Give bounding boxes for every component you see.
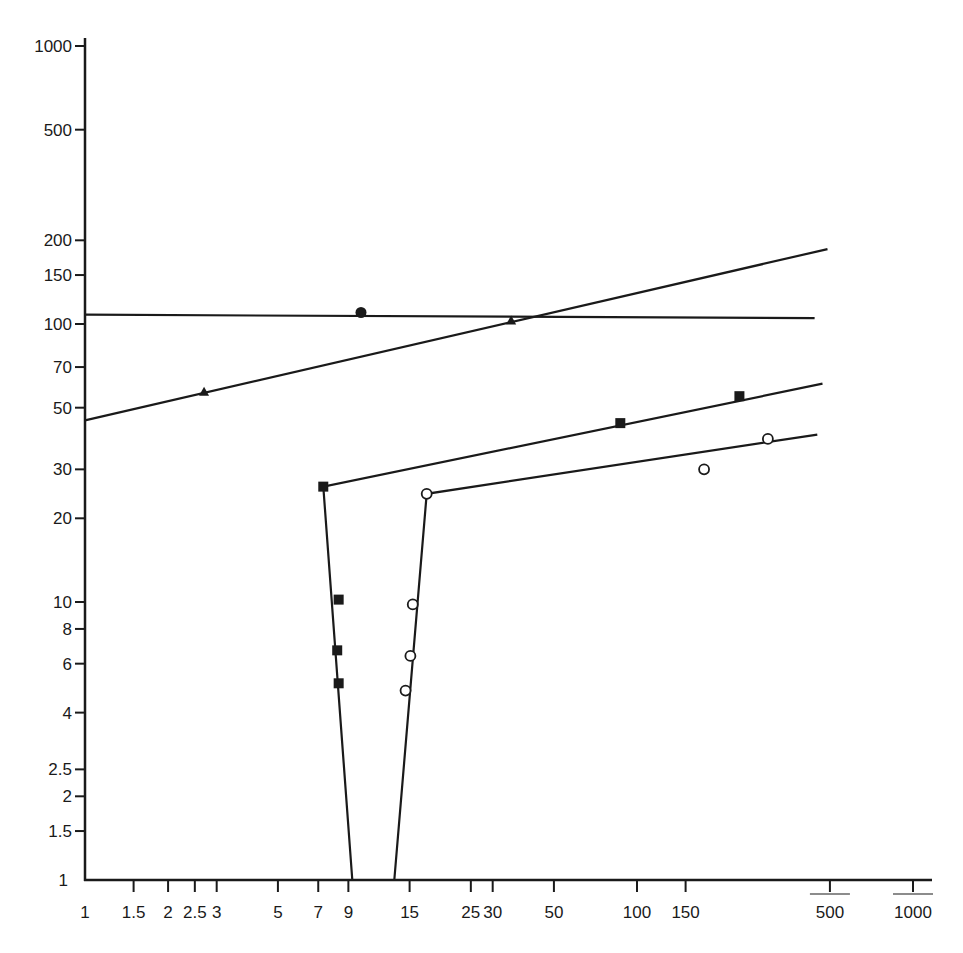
x-tick-label: 1000 xyxy=(894,903,932,922)
y-tick-label: 2.5 xyxy=(48,760,72,779)
y-tick-label: 6 xyxy=(63,655,72,674)
y-tick-label: 2 xyxy=(63,787,72,806)
x-tick-label: 5 xyxy=(273,903,282,922)
x-tick-label: 7 xyxy=(314,903,323,922)
x-tick-label: 30 xyxy=(483,903,502,922)
x-tick-label: 100 xyxy=(623,903,651,922)
x-tick-label: 50 xyxy=(544,903,563,922)
filled-circle-marker xyxy=(356,307,367,318)
x-tick-label: 9 xyxy=(344,903,353,922)
open-circle-marker xyxy=(763,434,773,444)
log-log-chart: 11.522.54681020305070100150200500100011.… xyxy=(0,0,963,953)
y-tick-label: 4 xyxy=(63,704,72,723)
filled-triangle-fit-line xyxy=(85,249,828,420)
open-circle-marker xyxy=(405,651,415,661)
axes: 11.522.54681020305070100150200500100011.… xyxy=(34,37,933,922)
y-tick-label: 70 xyxy=(53,358,72,377)
x-tick-label: 1.5 xyxy=(122,903,146,922)
y-tick-label: 1 xyxy=(59,871,68,890)
fit-lines xyxy=(85,249,828,880)
open-circle-marker xyxy=(422,489,432,499)
y-tick-label: 500 xyxy=(44,121,72,140)
open-circle-marker xyxy=(401,686,411,696)
x-tick-label: 25 xyxy=(461,903,480,922)
x-tick-label: 15 xyxy=(400,903,419,922)
x-tick-label: 150 xyxy=(671,903,699,922)
y-tick-label: 100 xyxy=(44,315,72,334)
x-tick-label: 1 xyxy=(80,903,89,922)
y-tick-label: 8 xyxy=(63,620,72,639)
x-tick-label: 2 xyxy=(163,903,172,922)
open-circle-marker xyxy=(699,464,709,474)
filled-square-fit-line xyxy=(323,384,822,880)
open-circle-fit-line xyxy=(394,435,817,880)
filled-square-marker xyxy=(318,482,328,492)
filled-square-marker xyxy=(334,595,344,605)
filled-square-marker xyxy=(734,391,744,401)
y-tick-label: 30 xyxy=(53,460,72,479)
y-tick-label: 150 xyxy=(44,266,72,285)
y-tick-label: 50 xyxy=(53,399,72,418)
x-tick-label: 2.5 xyxy=(183,903,207,922)
filled-square-marker xyxy=(615,418,625,428)
x-tick-label: 3 xyxy=(212,903,221,922)
y-tick-label: 10 xyxy=(53,593,72,612)
open-circle-marker xyxy=(408,599,418,609)
data-markers xyxy=(199,307,773,696)
x-tick-label: 500 xyxy=(816,903,844,922)
y-tick-label: 200 xyxy=(44,231,72,250)
filled-circle-fit-line xyxy=(85,315,815,318)
filled-square-marker xyxy=(332,645,342,655)
y-tick-label: 20 xyxy=(53,509,72,528)
y-tick-label: 1.5 xyxy=(48,822,72,841)
y-tick-label: 1000 xyxy=(34,37,72,56)
filled-square-marker xyxy=(334,678,344,688)
